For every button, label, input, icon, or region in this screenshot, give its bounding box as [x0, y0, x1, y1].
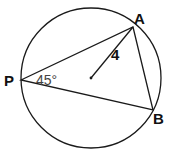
label-p: P — [4, 72, 14, 89]
radius-label: 4 — [111, 46, 120, 63]
angle-label: 45° — [36, 72, 57, 88]
label-a: A — [134, 10, 145, 27]
center-point — [90, 77, 93, 80]
triangle-pab — [21, 27, 153, 110]
label-b: B — [153, 110, 164, 127]
geometry-diagram: P A B 45° 4 — [0, 0, 172, 154]
